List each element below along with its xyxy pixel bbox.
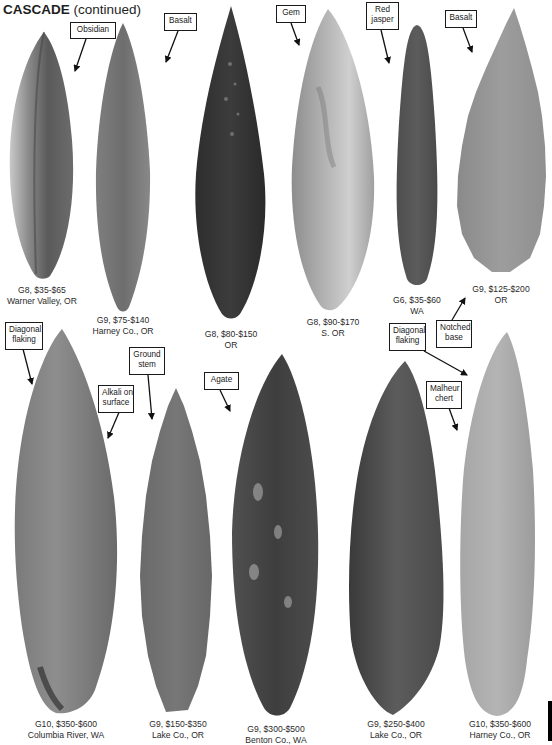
arrow-red-jasper (381, 30, 389, 63)
callout-diagonal-flaking-left: Diagonal flaking (5, 322, 43, 350)
callout-notched-base: Notched base (436, 320, 472, 348)
grade-price: G8, $90-$170 (307, 317, 360, 328)
point-image (6, 30, 78, 280)
artifact-dark-point (190, 4, 272, 320)
grade-price: G6, $35-$60 (393, 295, 441, 306)
caption-obsidian-point: G8, $35-$65 Warner Valley, OR (7, 285, 77, 306)
callout-alkali-on-surface: Alkali on surface (98, 385, 134, 413)
caption-dark-point: G8, $80-$150 OR (205, 329, 258, 350)
callout-malheur-chert: Malheur chert (426, 381, 462, 409)
page-edge-tab (548, 701, 552, 741)
artifact-malheur-chert-point (457, 330, 539, 718)
point-image (93, 21, 153, 313)
artifact-agate-point (228, 352, 322, 718)
callout-ground-stem: Ground stem (129, 347, 165, 375)
callout-obsidian: Obsidian (70, 22, 116, 39)
arrow-notched-base (452, 298, 465, 320)
location: Warner Valley, OR (7, 296, 77, 307)
page-title-suffix: (continued) (70, 2, 141, 17)
location: OR (472, 295, 529, 306)
point-image (454, 6, 549, 276)
callout-agate: Agate (204, 372, 239, 390)
grade-price: G9, $300-$500 (245, 724, 306, 735)
location: WA (393, 306, 441, 317)
grade-price: G8, $80-$150 (205, 329, 258, 340)
artifact-gem-point (288, 7, 378, 312)
artifact-lake-co-point (343, 359, 449, 717)
grade-price: G10, $350-$600 (28, 719, 105, 730)
location: Lake Co., OR (367, 730, 424, 741)
location: Benton Co., WA (245, 735, 306, 745)
page-title-bold: CASCADE (3, 2, 70, 17)
point-image (343, 359, 449, 717)
grade-price: G8, $35-$65 (7, 285, 77, 296)
point-image (190, 4, 272, 320)
artifact-red-jasper-point (391, 23, 443, 288)
grade-price: G9, $125-$200 (472, 284, 529, 295)
caption-columbia-river-point: G10, $350-$600 Columbia River, WA (28, 719, 105, 740)
grade-price: G10, $350-$600 (469, 719, 531, 730)
callout-diagonal-flaking-right: Diagonal flaking (389, 323, 426, 351)
point-image (457, 330, 539, 718)
callout-red-jasper: Red jasper (366, 2, 399, 30)
callout-basalt-2: Basalt (445, 10, 477, 28)
caption-ground-stem-point: G9, $150-$350 Lake Co., OR (149, 719, 206, 740)
grade-price: G9, $150-$350 (149, 719, 206, 730)
grade-price: G9, $75-$140 (92, 315, 153, 326)
caption-agate-point: G9, $300-$500 Benton Co., WA (245, 724, 306, 745)
page-title: CASCADE (continued) (3, 2, 141, 17)
location: Lake Co., OR (149, 730, 206, 741)
arrow-malheur-chert (449, 408, 457, 430)
location: OR (205, 340, 258, 351)
point-image (136, 386, 217, 714)
artifact-basalt-point-2 (454, 6, 549, 276)
artifact-obsidian-point (6, 30, 78, 280)
artifact-basalt-point-1 (93, 21, 153, 313)
location: S. OR (307, 328, 360, 339)
callout-gem: Gem (276, 5, 306, 23)
point-image (288, 7, 378, 312)
caption-malheur-chert-point: G10, $350-$600 Harney Co., OR (469, 719, 531, 740)
point-image (391, 23, 443, 288)
arrow-basalt-1 (166, 31, 178, 62)
caption-lake-co-point: G9, $250-$400 Lake Co., OR (367, 719, 424, 740)
artifact-ground-stem-point (136, 386, 217, 714)
location: Columbia River, WA (28, 730, 105, 741)
location: Harney Co., OR (469, 730, 531, 741)
point-image (228, 352, 322, 718)
grade-price: G9, $250-$400 (367, 719, 424, 730)
caption-basalt-point-2: G9, $125-$200 OR (472, 284, 529, 305)
caption-gem-point: G8, $90-$170 S. OR (307, 317, 360, 338)
caption-red-jasper-point: G6, $35-$60 WA (393, 295, 441, 316)
callout-basalt-1: Basalt (164, 13, 197, 31)
